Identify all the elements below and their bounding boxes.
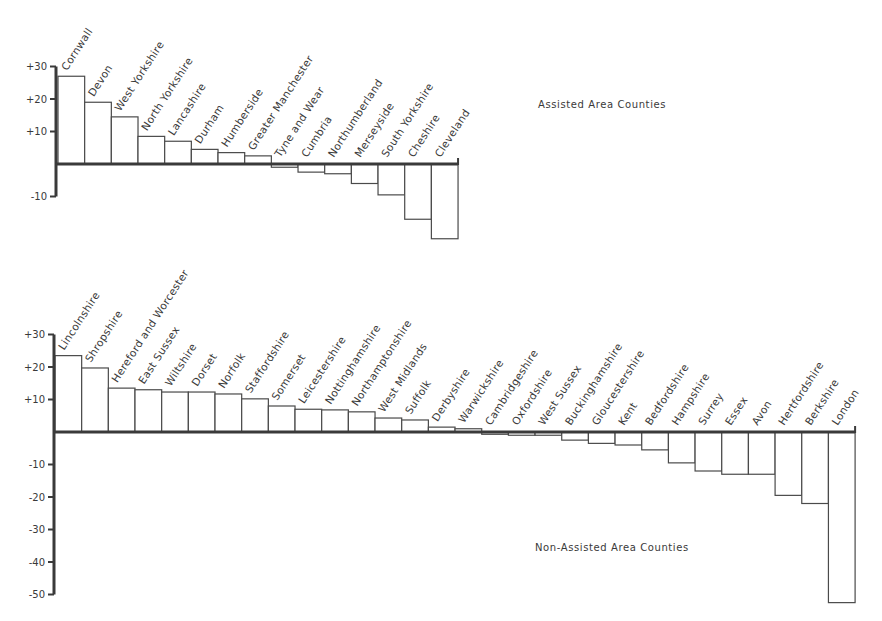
- bar: [218, 153, 245, 164]
- bar: [695, 432, 722, 471]
- figure: +30+20+10-10CornwallDevonWest YorkshireN…: [0, 0, 882, 621]
- bar: [215, 394, 242, 432]
- y-tick-label: -40: [29, 557, 45, 568]
- bar: [58, 76, 85, 164]
- y-tick-label: +10: [26, 126, 47, 137]
- bar: [188, 392, 215, 432]
- category-label: Dorset: [189, 351, 219, 388]
- bar: [828, 432, 855, 603]
- category-label: Avon: [749, 398, 774, 427]
- bar: [802, 432, 829, 504]
- bar: [378, 164, 405, 195]
- y-tick-label: +10: [24, 394, 45, 405]
- y-tick-label: -10: [31, 191, 47, 202]
- y-tick-label: +20: [26, 94, 47, 105]
- non-assisted-area-chart: +30+20+10-10-20-30-40-50LincolnshireShro…: [24, 267, 861, 603]
- bar: [108, 388, 135, 432]
- bar: [588, 432, 615, 443]
- category-label: Essex: [722, 394, 749, 427]
- bar: [268, 406, 295, 432]
- category-label: Devon: [85, 62, 114, 98]
- bar: [191, 149, 218, 164]
- bar: [165, 141, 192, 164]
- bar: [111, 117, 138, 164]
- bar: [138, 136, 165, 164]
- category-label: Suffolk: [402, 377, 433, 416]
- bar: [748, 432, 775, 474]
- county-bar-charts: +30+20+10-10CornwallDevonWest YorkshireN…: [0, 0, 882, 621]
- bar: [402, 420, 429, 432]
- bar: [55, 356, 82, 432]
- bar: [322, 410, 349, 432]
- y-tick-label: +30: [24, 329, 45, 340]
- category-label: Kent: [616, 400, 640, 427]
- bar: [615, 432, 642, 445]
- y-tick-label: -20: [29, 492, 45, 503]
- y-tick-label: -30: [29, 524, 45, 535]
- bar: [722, 432, 749, 474]
- y-tick-label: -10: [29, 459, 45, 470]
- bar: [668, 432, 695, 463]
- bar: [135, 390, 162, 432]
- category-label: Leicestershire: [296, 334, 348, 405]
- bar: [351, 164, 378, 184]
- bar: [348, 412, 375, 432]
- category-label: Norfolk: [216, 350, 248, 390]
- assisted-area-chart: +30+20+10-10CornwallDevonWest YorkshireN…: [26, 26, 666, 239]
- category-label: Cleveland: [432, 107, 472, 159]
- panel-title: Non-Assisted Area Counties: [535, 542, 689, 553]
- bar: [431, 164, 458, 239]
- bar: [85, 102, 112, 164]
- y-tick-label: +30: [26, 61, 47, 72]
- y-tick-label: -50: [29, 589, 45, 600]
- category-label: Cornwall: [59, 26, 95, 73]
- panel-title: Assisted Area Counties: [538, 99, 666, 110]
- bar: [242, 399, 269, 432]
- category-label: Surrey: [696, 390, 726, 427]
- bar: [295, 409, 322, 432]
- bar: [642, 432, 669, 450]
- bar: [82, 368, 109, 432]
- bar: [162, 392, 189, 432]
- y-tick-label: +20: [24, 362, 45, 373]
- bar: [405, 164, 432, 219]
- bar: [775, 432, 802, 495]
- bar: [375, 418, 402, 432]
